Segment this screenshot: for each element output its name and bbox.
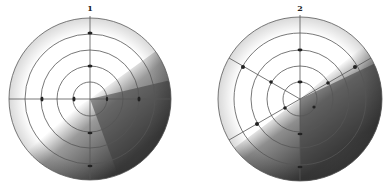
panel-1 — [9, 16, 171, 180]
panel-2 — [218, 15, 382, 181]
polar-diagrams — [0, 0, 386, 187]
